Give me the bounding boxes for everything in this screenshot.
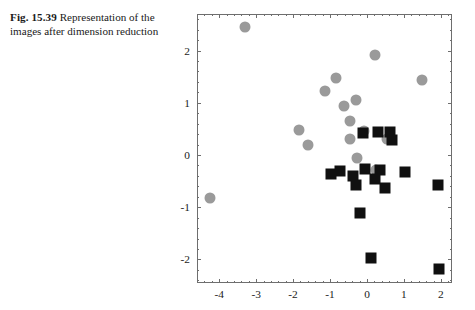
y-axis-tick-minor	[197, 186, 199, 187]
x-axis-tick-label: 0	[364, 288, 370, 300]
data-point-square	[379, 182, 390, 193]
y-axis-tick-minor	[197, 19, 199, 20]
x-axis-tick-minor	[323, 14, 324, 16]
y-axis-tick-minor	[450, 280, 452, 281]
x-axis-tick-minor	[419, 14, 420, 16]
y-axis-tick-label: 1	[173, 97, 190, 109]
y-axis-tick-minor	[197, 92, 199, 93]
x-axis-tick-label: -1	[325, 288, 335, 300]
y-axis-tick-minor	[197, 165, 199, 166]
x-axis-tick-minor	[278, 281, 279, 283]
y-axis-tick-minor	[450, 19, 452, 20]
y-axis-tick-minor	[450, 61, 452, 62]
x-axis-tick-minor	[434, 281, 435, 283]
x-axis-tick-minor	[264, 14, 265, 16]
x-axis-tick-major	[293, 14, 294, 18]
x-axis-tick-minor	[337, 281, 338, 283]
x-axis-tick-major	[404, 279, 405, 283]
data-point-square	[432, 179, 443, 190]
x-axis-tick-minor	[360, 281, 361, 283]
y-axis-tick-minor	[450, 92, 452, 93]
figure-number: Fig. 15.39	[10, 11, 57, 23]
y-axis-tick-minor	[197, 40, 199, 41]
y-axis-tick-minor	[197, 249, 199, 250]
x-axis-tick-minor	[389, 281, 390, 283]
data-point-circle	[417, 75, 428, 86]
x-axis-tick-minor	[337, 14, 338, 16]
x-axis-tick-minor	[212, 14, 213, 16]
y-axis-tick-minor	[450, 197, 452, 198]
y-axis-tick-minor	[197, 197, 199, 198]
y-axis-tick-minor	[197, 280, 199, 281]
data-point-square	[373, 126, 384, 137]
y-axis-tick-minor	[197, 218, 199, 219]
x-axis-tick-minor	[264, 281, 265, 283]
y-axis-tick-major	[197, 207, 201, 208]
x-axis-tick-minor	[212, 281, 213, 283]
data-point-square	[359, 163, 370, 174]
data-point-circle	[345, 134, 356, 145]
x-axis-tick-major	[256, 279, 257, 283]
y-axis-tick-minor	[450, 82, 452, 83]
data-point-square	[365, 253, 376, 264]
x-axis-tick-minor	[352, 14, 353, 16]
x-axis-tick-minor	[382, 14, 383, 16]
y-axis-tick-major	[197, 155, 201, 156]
data-point-square	[399, 167, 410, 178]
x-axis-tick-minor	[234, 14, 235, 16]
x-axis-tick-label: -2	[288, 288, 298, 300]
scatter-plot	[197, 14, 452, 283]
x-axis-tick-minor	[249, 281, 250, 283]
data-point-square	[350, 179, 361, 190]
x-axis-tick-minor	[434, 14, 435, 16]
x-axis-tick-major	[441, 14, 442, 18]
x-axis-tick-minor	[448, 14, 449, 16]
y-axis-tick-minor	[197, 61, 199, 62]
data-point-square	[375, 164, 386, 175]
y-axis-tick-minor	[450, 186, 452, 187]
y-axis-tick-minor	[450, 113, 452, 114]
x-axis-tick-minor	[286, 281, 287, 283]
x-axis-tick-minor	[360, 14, 361, 16]
y-axis-tick-label: -2	[173, 253, 190, 265]
data-point-square	[357, 128, 368, 139]
plot-canvas	[197, 14, 452, 283]
x-axis-tick-minor	[397, 14, 398, 16]
y-axis-tick-minor	[197, 239, 199, 240]
x-axis-tick-minor	[227, 281, 228, 283]
x-axis-tick-minor	[249, 14, 250, 16]
y-axis-tick-minor	[197, 30, 199, 31]
data-point-circle	[350, 95, 361, 106]
x-axis-tick-minor	[315, 14, 316, 16]
y-axis-tick-minor	[450, 249, 452, 250]
x-axis-tick-minor	[308, 281, 309, 283]
y-axis-tick-major	[448, 259, 452, 260]
y-axis-tick-major	[448, 207, 452, 208]
y-axis-tick-minor	[450, 124, 452, 125]
data-point-circle	[293, 125, 304, 136]
y-axis-tick-minor	[197, 134, 199, 135]
x-axis-tick-minor	[300, 14, 301, 16]
y-axis-tick-label: 2	[173, 45, 190, 57]
x-axis-tick-minor	[271, 281, 272, 283]
x-axis-tick-label: 2	[438, 288, 444, 300]
data-point-circle	[319, 86, 330, 97]
y-axis-tick-minor	[450, 134, 452, 135]
x-axis-tick-major	[330, 279, 331, 283]
x-axis-tick-minor	[426, 281, 427, 283]
x-axis-tick-minor	[227, 14, 228, 16]
data-point-square	[355, 208, 366, 219]
x-axis-tick-minor	[300, 281, 301, 283]
y-axis-tick-minor	[197, 145, 199, 146]
data-point-circle	[351, 153, 362, 164]
y-axis-tick-minor	[197, 71, 199, 72]
y-axis-tick-major	[197, 259, 201, 260]
data-point-circle	[344, 115, 355, 126]
data-point-circle	[240, 22, 251, 33]
x-axis-tick-minor	[234, 281, 235, 283]
x-axis-tick-minor	[411, 14, 412, 16]
y-axis-tick-major	[448, 155, 452, 156]
y-axis-tick-minor	[450, 176, 452, 177]
x-axis-tick-minor	[241, 281, 242, 283]
y-axis-tick-minor	[197, 82, 199, 83]
